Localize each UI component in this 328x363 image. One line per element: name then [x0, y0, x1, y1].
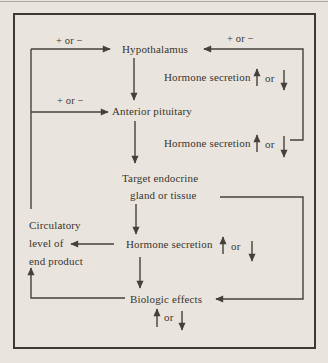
node-biologic-effects: Biologic effects — [130, 293, 202, 305]
node-circulatory-line3: end product — [29, 255, 83, 267]
plus-or-minus-label: + or − — [57, 95, 84, 107]
node-anterior-pituitary: Anterior pituitary — [112, 105, 192, 117]
plus-or-minus-label: + or − — [56, 35, 83, 47]
node-target-gland-line1: Target endocrine — [122, 172, 198, 184]
or-label: or — [164, 311, 173, 323]
node-target-gland-line2: gland or tissue — [130, 189, 196, 201]
hormone-secretion-label-2: Hormone secretion — [164, 137, 251, 149]
node-hypothalamus: Hypothalamus — [122, 43, 188, 55]
or-label: or — [265, 72, 274, 84]
edge-biologic-effects-to-circulatory — [31, 268, 125, 298]
node-circulatory-line2: level of — [29, 237, 64, 249]
or-label: or — [265, 138, 274, 150]
edge-shortloop-to-hypothalamus — [204, 49, 303, 140]
edge-target-to-biologic-effects — [216, 197, 303, 299]
hormone-secretion-label-1: Hormone secretion — [164, 71, 251, 83]
plus-or-minus-label: + or − — [227, 33, 254, 45]
or-label: or — [231, 240, 240, 252]
hormone-secretion-label-3: Hormone secretion — [126, 238, 213, 250]
figure-endocrine-feedback-diagram: Hypothalamus + or − + or − Hormone secre… — [0, 0, 328, 363]
node-circulatory-line1: Circulatory — [29, 219, 81, 231]
